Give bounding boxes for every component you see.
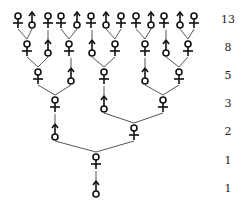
male-bee-icon xyxy=(163,40,169,56)
generation-count: 1 xyxy=(218,182,238,195)
generation-count: 8 xyxy=(218,41,238,54)
male-bee-icon xyxy=(142,68,148,84)
female-bee-icon xyxy=(43,13,53,28)
female-bee-icon xyxy=(189,13,199,28)
female-bee-icon xyxy=(22,41,32,56)
male-bee-icon xyxy=(101,96,107,112)
male-bee-icon xyxy=(74,12,80,28)
female-bee-icon xyxy=(174,69,184,84)
generation-count: 3 xyxy=(218,97,238,110)
female-bee-icon xyxy=(99,69,109,84)
female-bee-icon xyxy=(33,69,43,84)
generation-count: 13 xyxy=(218,13,238,26)
male-bee-icon xyxy=(93,181,99,197)
female-bee-icon xyxy=(140,41,150,56)
female-bee-icon xyxy=(64,41,74,56)
generation-count: 5 xyxy=(218,69,238,82)
generation-count: 1 xyxy=(218,154,238,167)
female-bee-icon xyxy=(56,13,66,28)
male-bee-icon xyxy=(89,40,95,56)
male-bee-icon xyxy=(177,12,183,28)
female-bee-icon xyxy=(129,125,139,140)
female-bee-icon xyxy=(131,13,141,28)
female-bee-icon xyxy=(50,97,60,112)
female-bee-icon xyxy=(86,13,96,28)
female-bee-icon xyxy=(158,97,168,112)
male-bee-icon xyxy=(29,12,35,28)
generation-count: 2 xyxy=(218,125,238,138)
male-bee-icon xyxy=(52,124,58,140)
male-bee-icon xyxy=(68,68,74,84)
male-bee-icon xyxy=(103,12,109,28)
female-bee-icon xyxy=(183,41,193,56)
female-bee-icon xyxy=(13,13,23,28)
male-bee-icon xyxy=(148,12,154,28)
female-bee-icon xyxy=(159,13,169,28)
male-bee-icon xyxy=(45,40,51,56)
female-bee-icon xyxy=(91,154,101,169)
female-bee-icon xyxy=(116,13,126,28)
bee-family-tree: 13853211 xyxy=(0,0,246,214)
tree-graphic xyxy=(0,0,246,214)
female-bee-icon xyxy=(110,41,120,56)
